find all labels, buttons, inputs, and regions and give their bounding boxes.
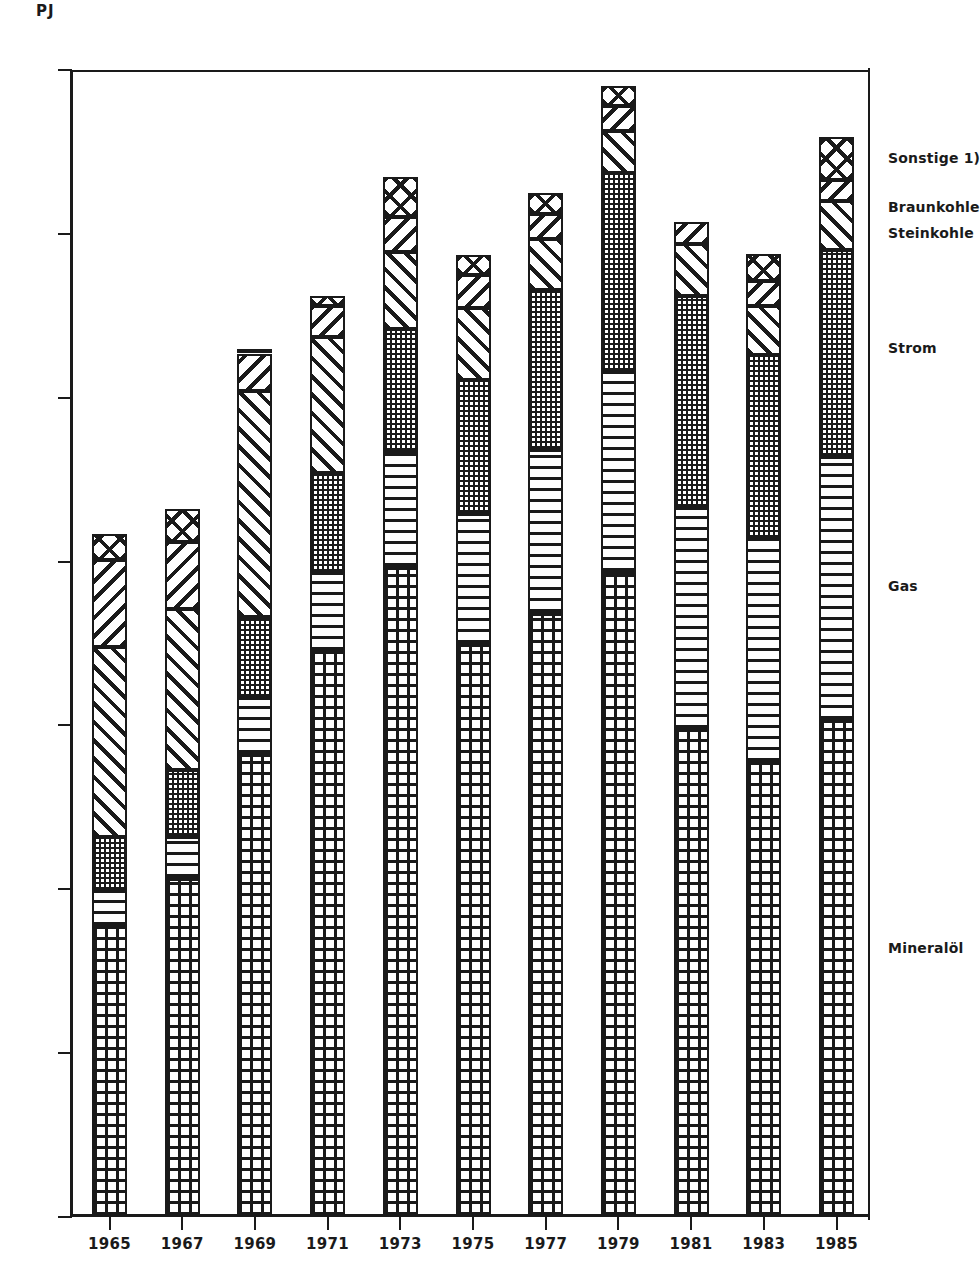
bar-1965 — [92, 534, 127, 1217]
bar-segment-gas — [456, 514, 491, 645]
bar-segment-sonstige-1 — [310, 296, 345, 306]
legend-label-sonstige-1: Sonstige 1) — [888, 150, 980, 166]
x-tick-label: 1975 — [433, 1235, 513, 1253]
bar-segment-sonstige-1 — [237, 349, 272, 353]
bar-segment-steinkohle — [746, 306, 781, 355]
bar-1969 — [237, 350, 272, 1217]
x-tick-label: 1985 — [797, 1235, 877, 1253]
bar-segment-braunkohle — [601, 106, 636, 131]
bar-segment-steinkohle — [92, 647, 127, 837]
legend-label-braunkohle: Braunkohle — [888, 199, 980, 215]
bar-segment-braunkohle — [165, 542, 200, 609]
bar-segment-mineral-l — [746, 763, 781, 1217]
bar-1971 — [310, 296, 345, 1217]
x-tick-mark — [472, 1217, 474, 1230]
bar-1981 — [674, 222, 709, 1217]
y-tick-mark — [58, 561, 72, 563]
y-tick-mark — [58, 1216, 72, 1218]
bar-segment-mineral-l — [383, 568, 418, 1217]
y-tick-mark — [58, 69, 72, 71]
bar-1973 — [383, 177, 418, 1217]
chart-root: PJ 0500100015002000250030003500 19651967… — [0, 0, 980, 1274]
bar-segment-mineral-l — [819, 721, 854, 1217]
x-tick-mark — [327, 1217, 329, 1230]
bar-segment-sonstige-1 — [528, 193, 563, 214]
bar-segment-gas — [528, 450, 563, 614]
bar-segment-mineral-l — [528, 614, 563, 1217]
x-tick-mark — [617, 1217, 619, 1230]
x-tick-mark — [399, 1217, 401, 1230]
bar-segment-braunkohle — [92, 560, 127, 647]
y-tick-mark — [58, 888, 72, 890]
bar-segment-strom — [92, 837, 127, 891]
bar-segment-steinkohle — [383, 252, 418, 329]
bar-segment-braunkohle — [310, 306, 345, 337]
bar-segment-strom — [601, 173, 636, 371]
x-tick-label: 1983 — [724, 1235, 804, 1253]
bar-segment-steinkohle — [456, 308, 491, 380]
bar-segment-sonstige-1 — [601, 86, 636, 106]
bar-segment-sonstige-1 — [165, 509, 200, 542]
x-tick-mark — [690, 1217, 692, 1230]
x-tick-mark — [545, 1217, 547, 1230]
bar-segment-mineral-l — [237, 755, 272, 1217]
bar-segment-strom — [310, 473, 345, 573]
bar-1983 — [746, 254, 781, 1217]
x-tick-mark — [836, 1217, 838, 1230]
bar-segment-gas — [310, 573, 345, 652]
bar-segment-strom — [746, 355, 781, 539]
y-axis-unit-label: PJ — [36, 2, 55, 20]
bar-segment-steinkohle — [237, 391, 272, 617]
bar-1979 — [601, 86, 636, 1217]
bar-1975 — [456, 255, 491, 1217]
bar-segment-strom — [528, 290, 563, 451]
bar-segment-gas — [383, 452, 418, 568]
bar-segment-steinkohle — [310, 337, 345, 473]
bar-segment-gas — [819, 457, 854, 721]
legend-label-strom: Strom — [888, 340, 937, 356]
x-tick-label: 1969 — [215, 1235, 295, 1253]
bar-1985 — [819, 137, 854, 1217]
bar-segment-strom — [237, 617, 272, 697]
bar-segment-steinkohle — [819, 201, 854, 250]
bar-segment-mineral-l — [165, 879, 200, 1217]
bar-segment-braunkohle — [674, 222, 709, 243]
y-tick-mark — [58, 233, 72, 235]
bar-segment-mineral-l — [456, 645, 491, 1217]
x-tick-mark — [109, 1217, 111, 1230]
bar-segment-sonstige-1 — [746, 254, 781, 282]
x-tick-label: 1977 — [506, 1235, 586, 1253]
legend-divider — [868, 68, 870, 1220]
x-tick-label: 1973 — [360, 1235, 440, 1253]
bar-segment-braunkohle — [746, 281, 781, 306]
bar-segment-braunkohle — [383, 217, 418, 251]
bar-segment-gas — [92, 891, 127, 927]
bar-segment-gas — [165, 837, 200, 880]
x-tick-mark — [181, 1217, 183, 1230]
x-tick-mark — [763, 1217, 765, 1230]
bar-segment-sonstige-1 — [92, 534, 127, 560]
bar-segment-steinkohle — [601, 131, 636, 174]
bar-segment-gas — [746, 539, 781, 763]
x-tick-label: 1981 — [651, 1235, 731, 1253]
x-tick-label: 1979 — [578, 1235, 658, 1253]
x-tick-label: 1971 — [288, 1235, 368, 1253]
bar-segment-gas — [237, 698, 272, 755]
y-tick-mark — [58, 724, 72, 726]
legend-label-mineral-l: Mineralöl — [888, 940, 964, 956]
bar-segment-strom — [456, 380, 491, 514]
bar-1967 — [165, 509, 200, 1217]
bar-segment-steinkohle — [674, 244, 709, 296]
bar-segment-sonstige-1 — [456, 255, 491, 275]
legend-label-steinkohle: Steinkohle — [888, 225, 974, 241]
bar-segment-braunkohle — [237, 354, 272, 392]
bar-segment-braunkohle — [819, 180, 854, 201]
legend-label-gas: Gas — [888, 578, 918, 594]
bar-segment-mineral-l — [601, 573, 636, 1217]
bar-segment-gas — [601, 372, 636, 574]
bar-segment-gas — [674, 508, 709, 731]
y-tick-mark — [58, 1052, 72, 1054]
bar-segment-mineral-l — [92, 927, 127, 1217]
bar-segment-sonstige-1 — [819, 137, 854, 180]
bar-segment-braunkohle — [456, 275, 491, 308]
